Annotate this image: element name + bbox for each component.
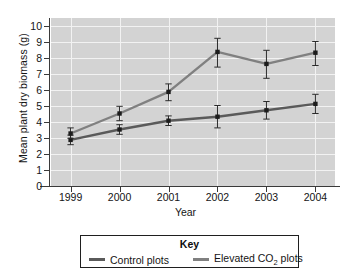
legend-label-elevated: Elevated CO2 plots (214, 252, 303, 267)
data-point-marker (215, 50, 219, 54)
data-point-marker (264, 62, 268, 66)
legend-line-swatch-control (89, 258, 105, 261)
legend-line-swatch-elevated (193, 258, 209, 261)
chart-figure: 012345678910 Mean plant dry biomass (g) … (0, 0, 347, 276)
data-point-marker (117, 111, 121, 115)
legend-item-elevated-co2-plots: Elevated CO2 plots (193, 252, 303, 267)
series-line (71, 52, 316, 134)
data-point-marker (264, 108, 268, 112)
legend-item-control-plots: Control plots (89, 252, 169, 267)
data-point-marker (68, 131, 72, 135)
chart-legend: Key Control plots Elevated CO2 plots (80, 235, 299, 268)
legend-items-row: Control plots Elevated CO2 plots (81, 252, 298, 267)
data-point-marker (313, 102, 317, 106)
data-point-marker (166, 90, 170, 94)
data-point-marker (215, 115, 219, 119)
legend-title: Key (81, 238, 298, 250)
legend-label-control: Control plots (110, 254, 169, 266)
series-elevated-co2-plots (67, 38, 318, 138)
series-line (71, 104, 316, 140)
data-point-marker (166, 119, 170, 123)
data-point-marker (313, 51, 317, 55)
data-point-marker (117, 127, 121, 131)
